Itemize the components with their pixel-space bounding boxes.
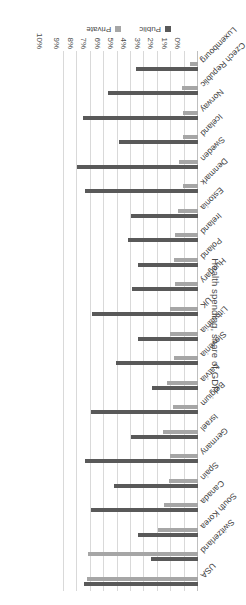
bar-group: Latvia bbox=[64, 365, 198, 390]
bar-private bbox=[158, 528, 198, 532]
bar-public bbox=[85, 459, 198, 463]
bar-public bbox=[131, 435, 198, 439]
bar-rows: USASwitzerlandSouth KoreaCanadaSpainGerm… bbox=[64, 51, 198, 591]
bar-group: South Korea bbox=[64, 512, 198, 537]
bar-private bbox=[183, 184, 198, 188]
bar-public bbox=[151, 557, 198, 561]
x-tick-0: 0% bbox=[173, 37, 182, 49]
bar-group: Poland bbox=[64, 242, 198, 267]
bar-group: Slovenia bbox=[64, 341, 198, 366]
legend-item-private: Private bbox=[86, 25, 121, 34]
bar-group: Luxembourg bbox=[64, 46, 198, 71]
bar-public bbox=[131, 214, 198, 218]
bar-group: Estonia bbox=[64, 193, 198, 218]
chart-legend: Public Private bbox=[86, 25, 171, 34]
bar-private bbox=[169, 479, 198, 483]
category-label: Ireland bbox=[198, 211, 223, 236]
chart-rotated-wrapper: Health spending, share of GDP USASwitzer… bbox=[0, 0, 229, 605]
bar-group: Israel bbox=[64, 414, 198, 439]
bar-group: Norway bbox=[64, 95, 198, 120]
plot-area: USASwitzerlandSouth KoreaCanadaSpainGerm… bbox=[64, 51, 198, 591]
bar-private bbox=[88, 552, 198, 556]
bar-group: Lithuania bbox=[64, 316, 198, 341]
bar-public bbox=[83, 116, 198, 120]
category-label: Norway bbox=[198, 87, 225, 114]
bar-public bbox=[138, 263, 198, 267]
legend-item-public: Public bbox=[139, 25, 171, 34]
bar-private bbox=[183, 135, 198, 139]
bar-public bbox=[132, 287, 198, 291]
bar-group: Switzerland bbox=[64, 537, 198, 562]
bar-private bbox=[190, 62, 198, 66]
x-tick-10: 10% bbox=[35, 33, 44, 49]
bar-private bbox=[182, 86, 198, 90]
bar-public bbox=[108, 91, 198, 95]
bar-public bbox=[128, 238, 198, 242]
bar-public bbox=[116, 361, 198, 365]
x-tick-9: 9% bbox=[53, 37, 62, 49]
bar-public bbox=[119, 140, 198, 144]
x-tick-7: 7% bbox=[80, 37, 89, 49]
legend-swatch-public bbox=[165, 27, 171, 33]
x-tick-6: 6% bbox=[93, 37, 102, 49]
bar-group: Spain bbox=[64, 463, 198, 488]
bar-group: USA bbox=[64, 561, 198, 586]
x-tick-1: 1% bbox=[160, 37, 169, 49]
category-label: Estonia bbox=[198, 185, 225, 212]
bar-group: Czech Republic bbox=[64, 71, 198, 96]
bar-public bbox=[84, 582, 198, 586]
bar-private bbox=[174, 356, 198, 360]
bar-group: Belgium bbox=[64, 390, 198, 415]
bar-public bbox=[91, 410, 198, 414]
bar-private bbox=[178, 209, 198, 213]
bar-group: Sweden bbox=[64, 144, 198, 169]
legend-label-private: Private bbox=[86, 25, 111, 34]
x-tick-4: 4% bbox=[120, 37, 129, 49]
bar-group: Germany bbox=[64, 439, 198, 464]
bar-private bbox=[179, 160, 198, 164]
x-tick-8: 8% bbox=[66, 37, 75, 49]
bar-public bbox=[92, 312, 198, 316]
bar-group: Hungary bbox=[64, 267, 198, 292]
bar-public bbox=[91, 508, 198, 512]
bar-group: Iceland bbox=[64, 120, 198, 145]
bar-group: Ireland bbox=[64, 218, 198, 243]
bar-public bbox=[85, 189, 198, 193]
x-tick-3: 3% bbox=[133, 37, 142, 49]
bar-private bbox=[183, 111, 198, 115]
bar-group: UK bbox=[64, 291, 198, 316]
x-tick-5: 5% bbox=[106, 37, 115, 49]
bar-private bbox=[170, 332, 198, 336]
bar-private bbox=[170, 307, 198, 311]
bar-public bbox=[136, 67, 198, 71]
bar-private bbox=[175, 233, 198, 237]
bar-private bbox=[165, 503, 199, 507]
bar-private bbox=[167, 381, 198, 385]
bar-group: Canada bbox=[64, 488, 198, 513]
bar-public bbox=[77, 165, 198, 169]
bar-public bbox=[138, 337, 198, 341]
bar-private bbox=[173, 405, 198, 409]
bar-public bbox=[138, 533, 198, 537]
bar-group: Denmark bbox=[64, 169, 198, 194]
bar-private bbox=[174, 258, 198, 262]
bar-private bbox=[163, 430, 198, 434]
bar-public bbox=[114, 484, 198, 488]
bar-public bbox=[152, 386, 198, 390]
bar-private bbox=[87, 577, 198, 581]
bar-private bbox=[170, 454, 198, 458]
legend-label-public: Public bbox=[139, 25, 161, 34]
x-tick-2: 2% bbox=[147, 37, 156, 49]
legend-swatch-private bbox=[115, 27, 121, 33]
category-label: USA bbox=[198, 561, 217, 580]
bar-private bbox=[175, 282, 198, 286]
health-spending-bar-chart: Health spending, share of GDP USASwitzer… bbox=[0, 0, 229, 605]
